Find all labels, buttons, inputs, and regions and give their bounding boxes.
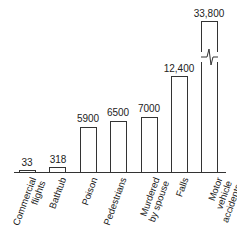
bar-motor-vehicle-lower [201,60,218,173]
category-label: Poison [80,176,99,207]
value-label: 318 [38,155,78,165]
bar-murdered-by-spouse [141,117,158,173]
category-label: Falls [174,176,190,198]
value-label: 12,400 [159,64,199,74]
bar-chart: 33 318 5900 6500 7000 12,400 33,800 Comm… [0,0,237,238]
category-label: Bathtub [48,176,69,210]
x-axis [14,172,226,173]
category-label: Motor vehicle accidents [201,176,237,224]
category-label: Pedestrians [102,176,129,227]
value-label: 33,800 [189,9,229,19]
category-label: Commercial flights [12,176,48,230]
bar-falls [171,76,188,173]
bar-poison [80,127,97,173]
value-label: 7000 [129,104,169,114]
category-label: Murdered by spouse [137,176,171,224]
bar-pedestrians [110,121,127,173]
axis-break-icon [199,44,220,70]
